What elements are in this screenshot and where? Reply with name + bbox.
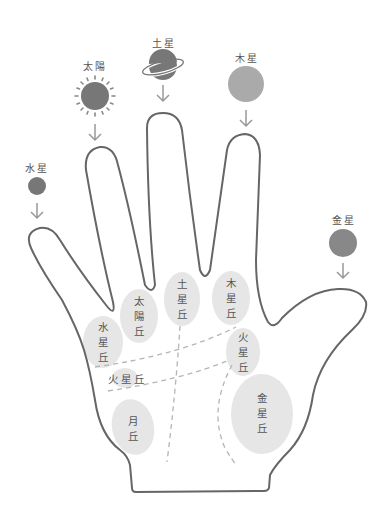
- venus-icon: [329, 229, 357, 257]
- mount-char: 土: [177, 277, 187, 292]
- venus-label: 金星: [332, 212, 356, 227]
- mercury-icon: [28, 177, 46, 195]
- mount-jupiter-label: 木 星 丘: [226, 276, 236, 321]
- mount-char: 木: [226, 276, 236, 291]
- sun-arrow-icon: [89, 124, 101, 140]
- mount-char: 太: [134, 294, 144, 309]
- mount-char: 丘: [134, 324, 144, 339]
- saturn-icon: [141, 49, 185, 80]
- mount-mars-upper-label: 火 星 丘: [238, 330, 248, 375]
- jupiter-icon: [228, 66, 264, 102]
- mount-mercury-label: 水 星 丘: [98, 320, 108, 365]
- mount-char: 水: [98, 320, 108, 335]
- sun-label: 太陽: [83, 58, 107, 73]
- mount-char: 星: [238, 345, 248, 360]
- mount-char: 月: [128, 414, 138, 429]
- mount-sun-label: 太 陽 丘: [134, 294, 144, 339]
- mount-venus-label: 金 星 丘: [257, 391, 267, 436]
- mount-char: 丘: [257, 421, 267, 436]
- mount-char: 丘: [128, 429, 138, 444]
- mount-char: 金: [257, 391, 267, 406]
- venus-arrow-icon: [337, 263, 349, 278]
- jupiter-arrow-icon: [240, 110, 252, 126]
- jupiter-label: 木星: [235, 50, 259, 65]
- mount-char: 丘: [226, 306, 236, 321]
- mount-char: 陽: [134, 309, 144, 324]
- mount-moon-label: 月 丘: [128, 414, 138, 444]
- mount-char: 星: [226, 291, 236, 306]
- mount-char: 星: [98, 335, 108, 350]
- mercury-arrow-icon: [31, 203, 43, 218]
- palmistry-diagram: [0, 0, 392, 527]
- mount-char: 火: [238, 330, 248, 345]
- mount-char: 星: [177, 292, 187, 307]
- fate-line: [167, 326, 180, 462]
- mount-mars-lower-label: 火星丘: [108, 371, 147, 386]
- saturn-arrow-icon: [157, 85, 169, 101]
- sun-icon: [75, 76, 115, 116]
- mount-char: 丘: [98, 350, 108, 365]
- mount-char: 星: [257, 406, 267, 421]
- mount-char: 丘: [177, 307, 187, 322]
- mercury-label: 水星: [25, 160, 49, 175]
- mount-char: 丘: [238, 360, 248, 375]
- mount-saturn-label: 土 星 丘: [177, 277, 187, 322]
- saturn-label: 土星: [152, 35, 176, 50]
